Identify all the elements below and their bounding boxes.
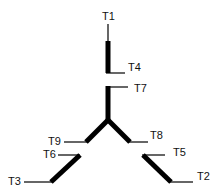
- label-t5: T5: [173, 146, 186, 158]
- label-t2: T2: [197, 170, 210, 182]
- label-t4: T4: [128, 61, 141, 73]
- fragment-middle: T7 T9 T8: [48, 82, 163, 147]
- label-t3: T3: [8, 175, 21, 187]
- label-t7: T7: [134, 82, 147, 94]
- fragment-lower-left: T6 T3: [8, 148, 80, 187]
- left-diagonal: [86, 120, 108, 142]
- tree-diagram: T1 T4 T7 T9 T8 T6 T3 T5 T2: [0, 0, 220, 192]
- label-t6: T6: [43, 148, 56, 160]
- fragment-top: T1 T4: [102, 10, 141, 73]
- label-t8: T8: [150, 129, 163, 141]
- fragment-lower-right: T5 T2: [142, 146, 210, 182]
- lower-right-diagonal: [143, 155, 171, 182]
- label-t1: T1: [102, 10, 115, 22]
- right-diagonal: [108, 120, 130, 142]
- label-t9: T9: [48, 135, 61, 147]
